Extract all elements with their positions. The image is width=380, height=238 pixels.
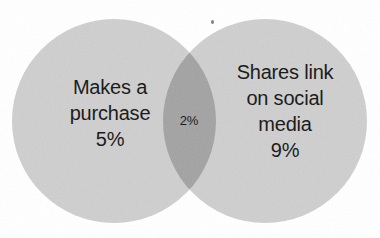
scan-artifact-speck [211, 20, 214, 24]
right-set-label-line1: Shares link [189, 59, 380, 85]
right-set-label: Shares link on social media 9% [189, 59, 380, 163]
left-set-label-line1: Makes a [14, 74, 206, 100]
left-set-percent: 5% [14, 126, 206, 152]
intersection-percent: 2% [159, 112, 219, 129]
right-set-label-line2: on social [189, 85, 380, 111]
intersection-percent-value: 2% [159, 112, 219, 129]
venn-diagram: Makes a purchase 5% Shares link on socia… [0, 0, 380, 238]
right-set-percent: 9% [189, 137, 380, 163]
